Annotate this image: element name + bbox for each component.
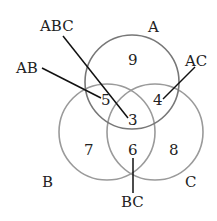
region-abc: 3 [128,111,138,129]
region-ac: 4 [153,91,163,109]
region-a-only: 9 [128,51,138,69]
set-label-c: C [185,173,196,191]
callout-line-ac [163,67,195,99]
venn-diagram: A B C ABC AB AC BC 9 5 4 3 7 6 8 [0,0,217,221]
callout-label-ab: AB [15,59,38,77]
region-bc: 6 [128,141,138,159]
callout-label-bc: BC [121,193,144,211]
region-c-only: 8 [169,141,179,159]
region-b-only: 7 [84,141,94,159]
callout-label-abc: ABC [39,17,74,35]
callout-line-abc [63,36,128,118]
set-label-a: A [147,18,159,36]
set-label-b: B [42,173,53,191]
callout-label-ac: AC [184,52,207,70]
region-ab: 5 [101,91,111,109]
